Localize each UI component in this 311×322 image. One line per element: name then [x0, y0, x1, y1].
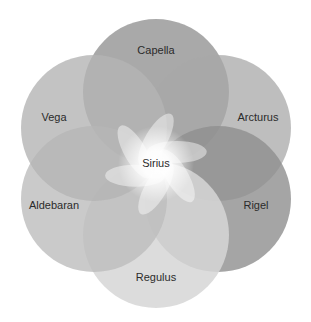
label-aldebaran: Aldebaran [29, 199, 79, 211]
label-vega: Vega [41, 111, 67, 123]
center-label-sirius: Sirius [142, 157, 170, 169]
label-rigel: Rigel [243, 199, 268, 211]
star-venn-diagram: CapellaArcturusRigelRegulusAldebaranVega… [0, 0, 311, 322]
label-regulus: Regulus [136, 271, 177, 283]
label-capella: Capella [137, 44, 175, 56]
label-arcturus: Arcturus [238, 111, 279, 123]
